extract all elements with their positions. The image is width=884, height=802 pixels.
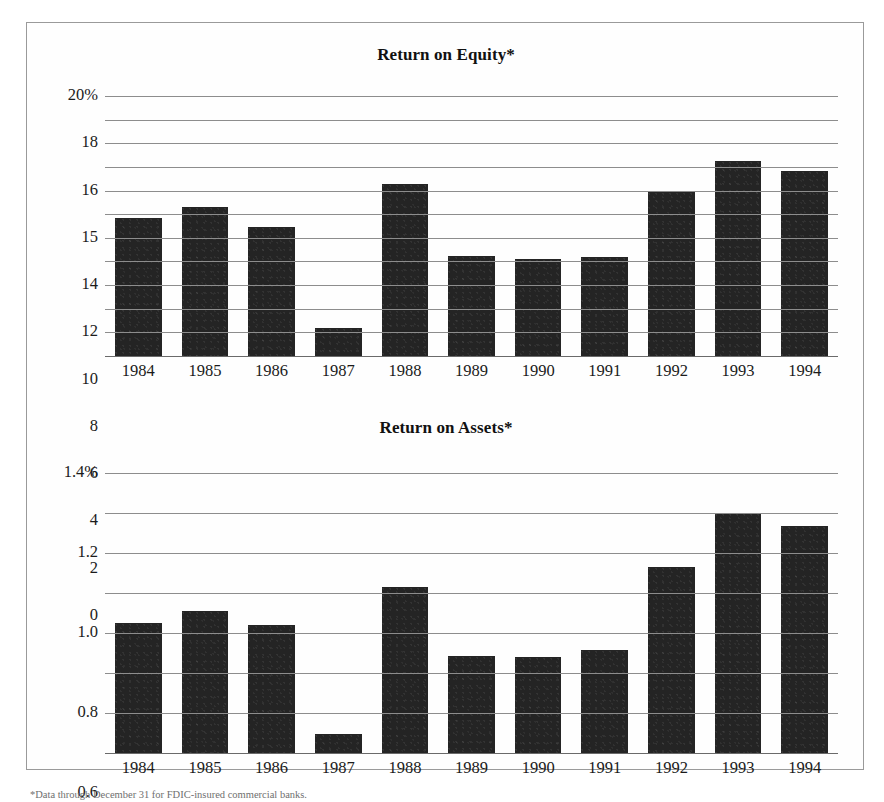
bar	[182, 207, 229, 357]
bar-slot	[638, 473, 705, 753]
y-axis-tick-label: 1.0	[77, 624, 98, 641]
gridline: 1.0	[105, 553, 838, 554]
bar-slot	[372, 473, 439, 753]
x-axis-tick-label: 1993	[705, 363, 772, 380]
bar-slot	[172, 473, 239, 753]
bar	[648, 567, 695, 753]
gridline: 1.4%	[105, 473, 838, 474]
bar	[315, 734, 362, 753]
bar	[781, 171, 828, 356]
bar-slot	[105, 96, 172, 356]
y-axis-tick-label: 1.2	[77, 544, 98, 561]
x-axis-tick-label: 1985	[172, 760, 239, 777]
bar-slot	[438, 473, 505, 753]
x-axis-labels-return-on-assets: 1984198519861987198819891990199119921993…	[105, 760, 838, 777]
gridline: 15	[105, 167, 838, 168]
bar	[581, 257, 628, 356]
gridline: 8	[105, 261, 838, 262]
bar-slot	[771, 473, 838, 753]
figure-footnote: *Data through December 31 for FDIC-insur…	[30, 789, 307, 802]
bar-series-return-on-assets	[105, 473, 838, 753]
bar-slot	[505, 473, 572, 753]
bar	[115, 218, 162, 356]
bar-slot	[238, 473, 305, 753]
x-axis-tick-label: 1988	[372, 363, 439, 380]
y-axis-tick-label: 0.8	[77, 704, 98, 721]
gridline: 0	[105, 356, 838, 357]
x-axis-tick-label: 1986	[238, 760, 305, 777]
bar	[248, 625, 295, 753]
gridline: 4	[105, 309, 838, 310]
gridline: 20%	[105, 96, 838, 97]
bar-slot	[172, 96, 239, 356]
bar-slot	[705, 96, 772, 356]
bar-slot	[638, 96, 705, 356]
x-axis-tick-label: 1987	[305, 760, 372, 777]
bar-slot	[438, 96, 505, 356]
x-axis-tick-label: 1992	[638, 760, 705, 777]
gridline: 2	[105, 332, 838, 333]
bar-slot	[372, 96, 439, 356]
bar-slot	[105, 473, 172, 753]
x-axis-tick-label: 1994	[771, 363, 838, 380]
x-axis-tick-label: 1990	[505, 363, 572, 380]
bar	[248, 227, 295, 356]
y-axis-tick-label: 14	[82, 276, 99, 293]
bar	[581, 650, 628, 753]
gridline: 16	[105, 143, 838, 144]
x-axis-tick-label: 1984	[105, 760, 172, 777]
bar	[448, 256, 495, 356]
y-axis-tick-label: 16	[82, 182, 99, 199]
gridline: 0.8	[105, 593, 838, 594]
x-axis-tick-label: 1985	[172, 363, 239, 380]
gridline: 0.6	[105, 633, 838, 634]
x-axis-tick-label: 1986	[238, 363, 305, 380]
bar-slot	[505, 96, 572, 356]
bar-slot	[305, 96, 372, 356]
bar	[515, 259, 562, 356]
chart-title-return-on-assets: Return on Assets*	[27, 418, 865, 438]
x-axis-tick-label: 1993	[705, 760, 772, 777]
y-axis-tick-label: 10	[82, 371, 99, 388]
gridline: 18	[105, 120, 838, 121]
x-axis-tick-label: 1992	[638, 363, 705, 380]
y-axis-tick-label: 12	[82, 324, 99, 341]
chart-title-return-on-equity: Return on Equity*	[27, 45, 865, 65]
gridline: 0	[105, 753, 838, 754]
y-axis-tick-label: 18	[82, 135, 99, 152]
x-axis-tick-label: 1987	[305, 363, 372, 380]
bar-slot	[305, 473, 372, 753]
x-axis-tick-label: 1989	[438, 760, 505, 777]
bar-slot	[771, 96, 838, 356]
plot-area-return-on-assets: 1.4%1.21.00.80.60.40.20	[105, 473, 838, 753]
bar-slot	[238, 96, 305, 356]
bar-slot	[705, 473, 772, 753]
gridline: 1.2	[105, 513, 838, 514]
y-axis-tick-label: 20%	[68, 87, 98, 104]
bar-slot	[571, 96, 638, 356]
y-axis-tick-label: 15	[82, 229, 99, 246]
x-axis-tick-label: 1994	[771, 760, 838, 777]
x-axis-tick-label: 1988	[372, 760, 439, 777]
bar	[115, 623, 162, 753]
bar-series-return-on-equity	[105, 96, 838, 356]
bar	[781, 526, 828, 753]
gridline: 0.4	[105, 673, 838, 674]
gridline: 14	[105, 191, 838, 192]
x-axis-tick-label: 1990	[505, 760, 572, 777]
x-axis-tick-label: 1991	[571, 760, 638, 777]
bar	[448, 656, 495, 753]
x-axis-tick-label: 1991	[571, 363, 638, 380]
chart-return-on-equity: Return on Equity* 20%18161514121086420 1…	[27, 23, 865, 398]
bar-slot	[571, 473, 638, 753]
y-axis-tick-label: 1.4%	[64, 464, 98, 481]
gridline: 6	[105, 285, 838, 286]
gridline: 10	[105, 238, 838, 239]
chart-return-on-assets: Return on Assets* 1.4%1.21.00.80.60.40.2…	[27, 398, 865, 771]
x-axis-tick-label: 1984	[105, 363, 172, 380]
x-axis-tick-label: 1989	[438, 363, 505, 380]
gridline: 12	[105, 214, 838, 215]
bar	[382, 587, 429, 753]
plot-area-return-on-equity: 20%18161514121086420	[105, 96, 838, 356]
figure-frame: Return on Equity* 20%18161514121086420 1…	[26, 22, 864, 770]
